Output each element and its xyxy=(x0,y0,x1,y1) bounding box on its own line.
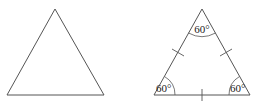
left-side-tick xyxy=(172,49,184,56)
plain-triangle xyxy=(7,9,104,95)
top-angle-label: 60° xyxy=(194,23,209,35)
bottom-left-angle-label: 60° xyxy=(156,82,171,94)
annotated-triangle: 60° 60° 60° xyxy=(154,9,250,101)
right-side-tick xyxy=(220,49,232,56)
diagram-canvas: 60° 60° 60° xyxy=(0,0,256,106)
bottom-right-angle-label: 60° xyxy=(230,82,245,94)
